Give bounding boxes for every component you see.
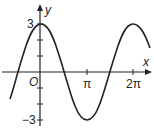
x-2pi-label: 2π xyxy=(126,77,141,91)
y-min-label: −3 xyxy=(22,113,36,127)
x-pi-label: π xyxy=(83,77,91,91)
x-axis-label: x xyxy=(142,55,150,69)
origin-label: O xyxy=(29,75,38,89)
y-axis-label: y xyxy=(44,3,52,17)
y-axis-arrow-icon xyxy=(37,4,43,11)
cosine-graph: 3 y O −3 π 2π x xyxy=(0,0,154,128)
x-axis-arrow-icon xyxy=(145,69,152,75)
y-max-label: 3 xyxy=(27,17,34,31)
